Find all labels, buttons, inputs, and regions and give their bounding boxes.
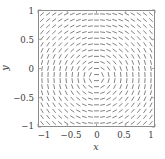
x-tick-label-0: 0 bbox=[94, 131, 99, 140]
y-tick-label-minus-0.5: −0.5 bbox=[5, 94, 34, 103]
y-tick-label-0.5: 0.5 bbox=[8, 36, 34, 45]
slope-field-figure: 1 0.5 0 −0.5 −1 −1 −0.5 0 0.5 1 x y bbox=[0, 0, 165, 159]
y-tick-label-0: 0 bbox=[12, 65, 34, 74]
slope-field-segments bbox=[39, 11, 154, 126]
y-tick-label-minus-1: −1 bbox=[9, 122, 34, 131]
plot-area bbox=[38, 10, 155, 127]
y-axis-label: y bbox=[0, 65, 9, 70]
x-tick-label-1: 1 bbox=[148, 131, 153, 140]
x-tick-label-minus-0.5: −0.5 bbox=[61, 131, 82, 140]
x-tick-label-minus-1: −1 bbox=[38, 131, 51, 140]
x-tick-label-0.5: 0.5 bbox=[117, 131, 131, 140]
x-axis-label: x bbox=[93, 142, 98, 151]
y-tick-label-1: 1 bbox=[12, 7, 34, 16]
